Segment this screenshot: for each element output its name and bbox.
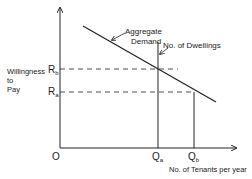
qb-tick-label: Qb bbox=[188, 151, 200, 163]
origin-label: O bbox=[52, 151, 60, 162]
x-axis-label: No. of Tenants per year bbox=[169, 165, 247, 174]
y-axis-label: Willingness to Pay bbox=[7, 67, 47, 94]
demand-pointer-icon bbox=[112, 33, 125, 40]
demand-label: Aggregate Demand bbox=[125, 27, 164, 46]
ra-tick-label: Ra bbox=[48, 86, 59, 98]
dwellings-label: No. of Dwellings bbox=[163, 41, 221, 50]
rb-tick-label: Rb bbox=[48, 64, 59, 76]
housing-diagram: Aggregate Demand No. of Dwellings Willin… bbox=[0, 0, 252, 179]
qa-tick-label: Qa bbox=[152, 151, 164, 163]
